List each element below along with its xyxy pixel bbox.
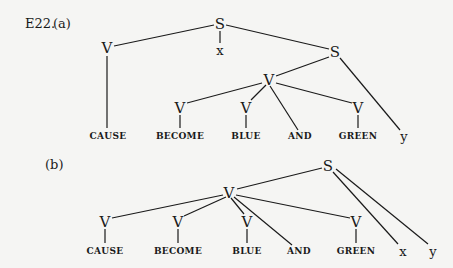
b-leaf-x: x (399, 245, 406, 258)
a-leaf-y: y (400, 130, 407, 143)
a-leaf-x: x (216, 44, 223, 57)
a-leaf-and: AND (288, 132, 312, 141)
b-leaf-green: GREEN (337, 247, 376, 256)
example-label: E22. (25, 16, 55, 31)
b-leaf-blue: BLUE (232, 247, 261, 256)
a-node-v-cause: V (102, 41, 113, 56)
a-node-s-inner: S (330, 45, 340, 60)
a-node-v-blue: V (241, 101, 252, 116)
figure-e22: E22. (a) (b) S V x S V V V V CAUSE BECOM… (0, 0, 453, 268)
b-node-s-top: S (323, 159, 333, 174)
tree-edges (0, 0, 453, 268)
diagram-b-label: (b) (45, 157, 63, 172)
b-leaf-become: BECOME (154, 247, 202, 256)
a-leaf-blue: BLUE (231, 132, 260, 141)
b-node-v-green: V (351, 215, 362, 230)
a-node-v-become: V (175, 101, 186, 116)
a-node-v-green: V (353, 101, 364, 116)
a-node-v-mid: V (264, 73, 275, 88)
a-node-s-top: S (215, 17, 225, 32)
b-leaf-cause: CAUSE (87, 247, 124, 256)
diagram-a-label: (a) (53, 16, 71, 31)
a-leaf-cause: CAUSE (90, 132, 127, 141)
b-node-v-blue: V (242, 215, 253, 230)
b-node-v-mid: V (224, 186, 235, 201)
b-leaf-and: AND (287, 247, 311, 256)
a-leaf-become: BECOME (156, 132, 204, 141)
b-node-v-become: V (173, 215, 184, 230)
b-leaf-y: y (429, 245, 436, 258)
a-leaf-green: GREEN (339, 132, 378, 141)
b-node-v-cause: V (100, 215, 111, 230)
